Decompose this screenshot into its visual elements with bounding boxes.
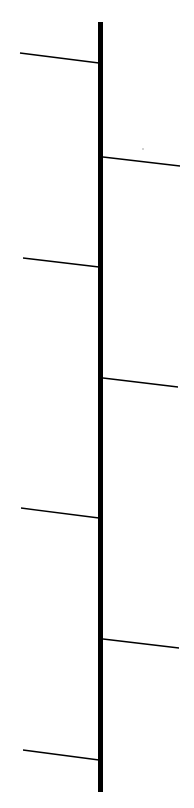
timeline-diagram [0,0,194,808]
stray-dot [142,148,144,150]
background [0,0,194,808]
stray-dots [142,148,144,150]
